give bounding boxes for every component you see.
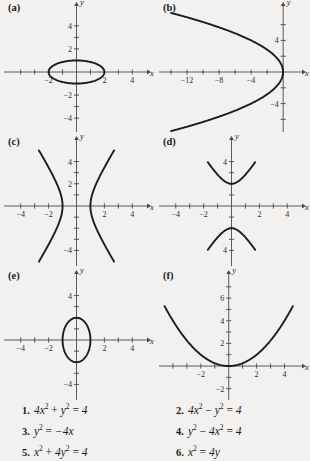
equation-number: 1. [22,405,30,416]
svg-text:x: x [149,68,154,78]
plot-b: −12−8−44−4xy [155,0,310,138]
equation-item: 3.y2 = −4x [22,417,172,438]
svg-text:x: x [149,336,154,346]
svg-text:4: 4 [285,210,289,219]
svg-text:x: x [304,362,309,372]
svg-text:x: x [304,202,309,212]
svg-text:2: 2 [102,344,106,353]
svg-text:−2: −2 [44,344,53,353]
svg-text:−2: −2 [44,210,53,219]
svg-text:−4: −4 [270,100,279,109]
svg-text:4: 4 [130,344,134,353]
svg-text:y: y [286,0,291,7]
svg-text:2: 2 [68,45,72,54]
svg-text:−4: −4 [247,76,256,85]
equation-expression: 4x2 − y2 = 4 [188,404,242,416]
svg-text:−4: −4 [171,210,180,219]
svg-text:4: 4 [130,210,134,219]
svg-text:−2: −2 [216,385,225,394]
panel-b: (b) −12−8−44−4xy [155,0,310,138]
svg-text:4: 4 [130,76,134,85]
figure-page: (a) −22442−2−4xy (b) −12−8−44−4xy (c) −4… [0,0,310,461]
plot-a: −22442−2−4xy [0,0,155,138]
svg-text:4: 4 [68,22,72,31]
svg-text:4: 4 [68,292,72,301]
equation-list: 1.4x2 + y2 = 43.y2 = −4x5.x2 + 4y2 = 4 2… [0,396,310,461]
equation-number: 5. [22,447,30,458]
svg-text:2: 2 [220,339,224,348]
panel-c: (c) −4−22442−4xy [0,134,155,272]
svg-text:−4: −4 [63,114,72,123]
equation-expression: 4x2 + y2 = 4 [34,404,88,416]
equation-item: 6.x2 = 4y [176,438,310,459]
svg-text:x: x [304,68,309,78]
svg-text:y: y [231,268,236,275]
plot-c: −4−22442−4xy [0,134,155,272]
equation-column-left: 1.4x2 + y2 = 43.y2 = −4x5.x2 + 4y2 = 4 [22,396,172,459]
equation-expression: x2 + 4y2 = 4 [34,446,88,458]
svg-text:−4: −4 [63,246,72,255]
svg-text:4: 4 [223,158,227,167]
equation-column-right: 2.4x2 − y2 = 44.y2 − 4x2 = 46.x2 = 4y [176,396,310,459]
svg-text:4: 4 [282,370,286,379]
svg-text:y: y [234,134,239,141]
panel-f: (f) −224642−2xy [155,268,310,406]
plot-f: −224642−2xy [155,268,310,406]
svg-text:4: 4 [223,246,227,255]
svg-text:x: x [149,202,154,212]
equation-item: 1.4x2 + y2 = 4 [22,396,172,417]
svg-text:y: y [79,268,84,275]
svg-text:y: y [79,134,84,141]
panel-a: (a) −22442−2−4xy [0,0,155,138]
svg-text:4: 4 [68,158,72,167]
svg-text:−2: −2 [63,91,72,100]
equation-expression: y2 − 4x2 = 4 [188,425,242,437]
svg-text:−2: −2 [199,210,208,219]
svg-text:2: 2 [255,370,259,379]
equation-number: 3. [22,426,30,437]
svg-text:−4: −4 [63,380,72,389]
equation-expression: x2 = 4y [188,446,220,458]
svg-text:−12: −12 [181,76,194,85]
equation-number: 6. [176,447,184,458]
equation-number: 2. [176,405,184,416]
equation-item: 5.x2 + 4y2 = 4 [22,438,172,459]
plot-e: −4−2244−4xy [0,268,155,406]
equation-number: 4. [176,426,184,437]
plot-d: −4−22444xy [155,134,310,272]
svg-text:2: 2 [257,210,261,219]
equation-item: 4.y2 − 4x2 = 4 [176,417,310,438]
equation-item: 2.4x2 − y2 = 4 [176,396,310,417]
svg-text:4: 4 [275,36,279,45]
svg-text:6: 6 [220,294,224,303]
svg-text:4: 4 [220,317,224,326]
panel-e: (e) −4−2244−4xy [0,268,155,406]
svg-text:2: 2 [102,210,106,219]
svg-text:−4: −4 [16,344,25,353]
svg-text:y: y [79,0,84,7]
svg-text:−2: −2 [197,370,206,379]
panel-d: (d) −4−22444xy [155,134,310,272]
svg-text:−4: −4 [16,210,25,219]
svg-text:2: 2 [68,180,72,189]
equation-expression: y2 = −4x [34,425,74,437]
svg-text:−8: −8 [215,76,224,85]
